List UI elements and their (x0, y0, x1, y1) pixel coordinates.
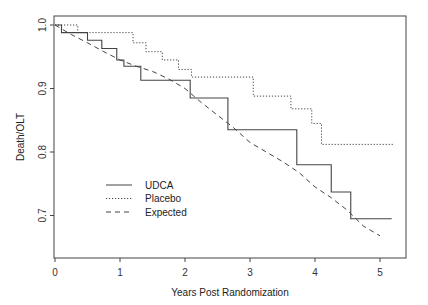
y-tick-label: 0.7 (37, 208, 48, 222)
x-axis: 012345 (52, 258, 383, 278)
plot-frame (54, 16, 406, 258)
legend-label-udca: UDCA (145, 180, 174, 191)
survival-chart: 012345 0.70.80.91.0 UDCAPlaceboExpected … (0, 0, 428, 305)
x-tick-label: 2 (182, 267, 188, 278)
series-layer (55, 25, 393, 236)
y-axis-title: Death/OLT (15, 113, 26, 161)
y-axis: 0.70.80.91.0 (37, 18, 54, 223)
y-tick-label: 1.0 (37, 18, 48, 32)
x-tick-label: 3 (247, 267, 253, 278)
x-tick-label: 1 (117, 267, 123, 278)
x-tick-label: 4 (312, 267, 318, 278)
y-tick-label: 0.9 (37, 81, 48, 95)
x-tick-label: 5 (377, 267, 383, 278)
series-placebo (55, 25, 393, 144)
legend-label-expected: Expected (145, 207, 187, 218)
series-udca (55, 25, 392, 219)
x-axis-title: Years Post Randomization (171, 287, 288, 298)
legend: UDCAPlaceboExpected (106, 180, 187, 218)
x-tick-label: 0 (52, 267, 58, 278)
legend-label-placebo: Placebo (145, 193, 182, 204)
y-tick-label: 0.8 (37, 145, 48, 159)
series-expected (55, 25, 380, 236)
